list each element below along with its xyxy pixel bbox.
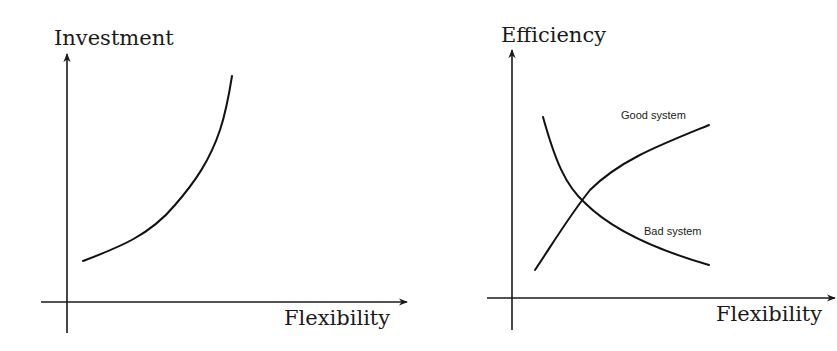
x-axis-label: Flexibility — [284, 306, 390, 330]
y-axis-label: Efficiency — [501, 23, 606, 47]
efficiency-chart: Efficiency Flexibility Good system Bad s… — [487, 23, 835, 330]
investment-curve — [83, 76, 232, 261]
good-system-label: Good system — [621, 109, 686, 121]
diagram-canvas: Investment Flexibility Efficiency Flexib… — [0, 0, 837, 351]
y-axis-label: Investment — [54, 26, 174, 50]
x-axis-label: Flexibility — [716, 302, 822, 326]
bad-system-label: Bad system — [644, 225, 701, 237]
good-system-curve — [535, 125, 709, 270]
bad-system-curve — [543, 117, 709, 265]
investment-chart: Investment Flexibility — [41, 26, 407, 333]
